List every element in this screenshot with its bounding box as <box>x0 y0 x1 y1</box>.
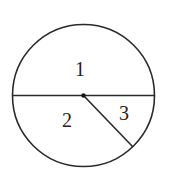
region-label-3: 3 <box>119 102 129 124</box>
region-label-1: 1 <box>75 58 85 80</box>
divided-circle-diagram: 1 2 3 <box>0 0 173 183</box>
center-point <box>81 93 85 97</box>
region-label-2: 2 <box>62 109 72 131</box>
